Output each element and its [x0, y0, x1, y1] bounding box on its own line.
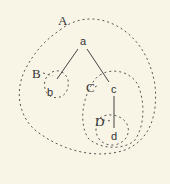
edge-a-b: [57, 49, 78, 79]
node-a: a: [80, 35, 87, 47]
region-b-label: B: [32, 66, 41, 81]
region-b-leader: [43, 73, 53, 76]
node-b: b: [47, 86, 53, 98]
node-c: c: [111, 83, 117, 95]
tree-region-diagram: a b c d A B C D: [0, 0, 170, 184]
region-d-label: D: [95, 114, 104, 129]
region-c-label: C: [86, 80, 95, 95]
region-a-label: A: [58, 13, 68, 28]
node-d: d: [111, 130, 117, 142]
edge-a-c: [87, 49, 109, 82]
diagram-svg: a b c d A B C D: [0, 0, 170, 184]
region-c-leader: [95, 85, 99, 87]
